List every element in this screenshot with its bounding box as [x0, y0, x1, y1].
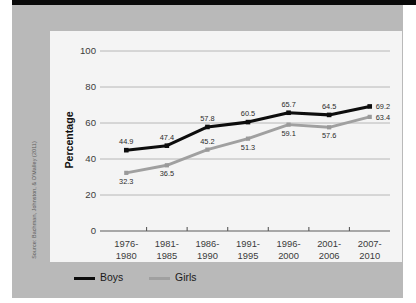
x-tick-label: 1981-1985	[155, 238, 179, 261]
line-chart: 020406080100 1976-19801981-19851986-1990…	[50, 31, 402, 262]
data-point-marker[interactable]	[165, 143, 170, 148]
data-point-marker[interactable]	[327, 125, 331, 129]
data-point-marker[interactable]	[124, 148, 129, 153]
svg-text:1976-: 1976-	[114, 238, 138, 249]
data-point-labels: 44.947.457.860.565.764.569.232.336.545.2…	[119, 100, 390, 186]
svg-text:2001-: 2001-	[317, 238, 341, 249]
svg-text:1996-: 1996-	[277, 238, 301, 249]
svg-text:2006: 2006	[319, 250, 340, 261]
data-point-marker[interactable]	[165, 163, 169, 167]
y-tick-labels: 020406080100	[80, 45, 96, 236]
data-point-marker[interactable]	[246, 137, 250, 141]
data-point-label: 47.4	[160, 133, 174, 142]
figure-gray-panel: Source: Bachman, Johnston, & O'Malley (2…	[12, 5, 403, 298]
x-tick-label: 1996-2000	[277, 238, 301, 261]
svg-text:2010: 2010	[359, 250, 380, 261]
data-point-label: 64.5	[322, 102, 336, 111]
x-tick-label: 1986-1990	[195, 238, 219, 261]
data-point-marker[interactable]	[124, 171, 128, 175]
data-point-marker[interactable]	[327, 113, 332, 118]
legend-label: Girls	[175, 273, 196, 283]
data-point-marker[interactable]	[205, 125, 210, 130]
data-point-label: 45.2	[200, 137, 214, 146]
x-tick-label: 1991-1995	[236, 238, 260, 261]
y-tick-label: 40	[85, 153, 96, 164]
svg-text:1986-: 1986-	[195, 238, 219, 249]
x-tick-labels: 1976-19801981-19851986-19901991-19951996…	[114, 238, 381, 261]
source-credit: Source: Bachman, Johnston, & O'Malley (2…	[31, 120, 37, 280]
data-point-label: 32.3	[119, 177, 133, 186]
line-swatch-icon	[149, 277, 170, 280]
y-tick-label: 80	[85, 81, 96, 92]
svg-text:2000: 2000	[278, 250, 299, 261]
figure-root: Source: Bachman, Johnston, & O'Malley (2…	[0, 0, 416, 303]
data-point-marker[interactable]	[205, 148, 209, 152]
data-point-label: 63.4	[376, 113, 390, 122]
data-point-label: 36.5	[160, 169, 174, 178]
data-point-label: 59.1	[281, 129, 295, 138]
data-point-marker[interactable]	[367, 104, 372, 109]
svg-text:1980: 1980	[116, 250, 137, 261]
x-tick-label: 1976-1980	[114, 238, 138, 261]
y-tick-label: 100	[80, 45, 96, 56]
data-point-label: 57.8	[200, 114, 214, 123]
data-point-label: 69.2	[376, 102, 390, 111]
svg-text:1995: 1995	[238, 250, 259, 261]
y-tick-label: 20	[85, 189, 96, 200]
data-point-label: 51.3	[241, 143, 255, 152]
data-point-label: 44.9	[119, 137, 133, 146]
svg-text:1990: 1990	[197, 250, 218, 261]
svg-text:2007-: 2007-	[358, 238, 382, 249]
legend-label: Boys	[100, 273, 123, 283]
data-point-label: 65.7	[281, 100, 295, 109]
data-point-marker[interactable]	[368, 115, 372, 119]
data-point-label: 57.6	[322, 131, 336, 140]
data-point-marker[interactable]	[246, 120, 251, 125]
data-point-label: 60.5	[241, 109, 255, 118]
data-point-marker[interactable]	[286, 110, 291, 115]
svg-text:1981-: 1981-	[155, 238, 179, 249]
x-tick-label: 2001-2006	[317, 238, 341, 261]
y-tick-label: 0	[91, 225, 96, 236]
plot-card: Percentage 020406080100 1976-19801981-19…	[50, 31, 402, 262]
x-tick-label: 2007-2010	[358, 238, 382, 261]
data-point-marker[interactable]	[286, 123, 290, 127]
legend-item-girls[interactable]: Girls	[149, 273, 196, 283]
legend-item-boys[interactable]: Boys	[74, 273, 123, 283]
line-swatch-icon	[74, 277, 95, 280]
axis-lines	[100, 51, 390, 231]
y-tick-label: 60	[85, 117, 96, 128]
svg-text:1985: 1985	[156, 250, 177, 261]
chart-legend: Boys Girls	[74, 273, 196, 283]
svg-text:1991-: 1991-	[236, 238, 260, 249]
